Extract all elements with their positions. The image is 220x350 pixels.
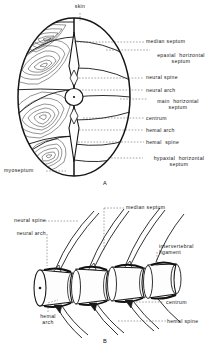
panel-letter-a: A [103,180,107,186]
label-intervertebral-ligament: intervertebral ligament [159,243,217,255]
label-neural-arch-b: neural arch [8,230,46,236]
figure-page: skin median septum epaxial horizontal se… [0,0,220,350]
label-hemal-arch-b: hemal arch [30,313,66,325]
label-neural-spine-b: neural spine [8,217,46,223]
label-skin: skin [62,3,98,9]
notochord-dot [73,96,75,98]
label-epaxial-horizontal-septum: epaxial horizontal septum [148,52,214,64]
label-neural-arch-a: neural arch [146,87,175,93]
label-hemal-arch-a: hemal arch [146,127,175,133]
panel-b-neural-spines [56,208,184,268]
label-hypaxial-horizontal-septum: hypaxial horizontal septum [142,155,216,167]
label-median-septum-b: median septum [126,204,165,210]
label-centrum-a: centrum [146,115,167,121]
label-hemal-spine-b: hemal spine [167,318,198,324]
label-main-horizontal-septum: main horizontal septum [146,98,210,110]
panel-b-hemal-spines [57,299,180,338]
label-hemal-spine-a: hemal spine [146,139,179,145]
label-myoseptum: myoseptum [4,167,46,173]
label-median-septum-a: median septum [146,38,185,44]
label-centrum-b: centrum [166,299,187,305]
panel-letter-b: B [103,338,107,344]
label-neural-spine-a: neural spine [146,74,178,80]
